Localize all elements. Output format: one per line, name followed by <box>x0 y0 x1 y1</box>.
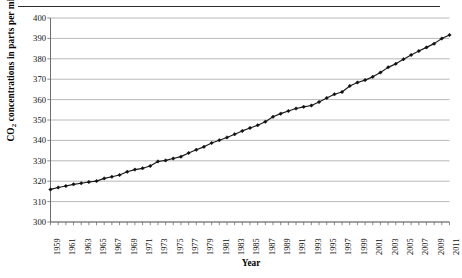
data-point-1982 <box>225 136 229 140</box>
data-point-1960 <box>56 186 60 190</box>
data-point-1990 <box>287 109 291 113</box>
co2-concentration-chart: CO2 concentrations in parts per million … <box>0 0 462 278</box>
x-axis-tick-1969: 1969 <box>131 238 139 255</box>
x-axis-tick-1977: 1977 <box>192 238 200 255</box>
data-point-1991 <box>294 107 298 111</box>
data-point-1984 <box>241 129 245 133</box>
gridlines <box>51 18 450 222</box>
x-axis-tick-2009: 2009 <box>438 238 446 255</box>
data-point-1993 <box>310 104 314 108</box>
x-axis-tick-1959: 1959 <box>54 238 62 255</box>
data-point-1962 <box>72 183 76 187</box>
x-axis-tick-1967: 1967 <box>115 238 123 255</box>
x-axis-tick-1991: 1991 <box>299 238 307 255</box>
x-axis-tick-1997: 1997 <box>345 238 353 255</box>
x-axis-title: Year <box>0 258 462 268</box>
data-point-1971 <box>141 167 145 171</box>
data-point-1999 <box>356 81 360 85</box>
x-axis-tick-2003: 2003 <box>392 238 400 255</box>
x-axis-tick-1987: 1987 <box>269 238 277 255</box>
data-point-1986 <box>256 124 259 128</box>
data-point-1959 <box>49 188 53 192</box>
data-point-1977 <box>187 151 191 155</box>
data-point-1978 <box>195 148 199 152</box>
data-point-1967 <box>110 175 114 179</box>
x-axis-tick-1961: 1961 <box>69 238 77 255</box>
x-axis-tick-1965: 1965 <box>100 238 108 255</box>
data-point-1968 <box>118 173 122 177</box>
data-point-2011 <box>448 33 452 37</box>
x-axis-tick-1993: 1993 <box>315 238 323 255</box>
x-axis-tick-1999: 1999 <box>361 238 369 255</box>
data-point-1975 <box>172 157 176 161</box>
x-axis-tick-1995: 1995 <box>330 238 338 255</box>
x-axis-tick-2011: 2011 <box>453 239 461 255</box>
data-point-1985 <box>248 126 252 130</box>
x-axis-tick-2005: 2005 <box>407 238 415 255</box>
data-point-1965 <box>95 179 99 183</box>
x-axis-tick-1985: 1985 <box>253 238 261 255</box>
x-axis-tick-1971: 1971 <box>146 238 154 255</box>
x-axis-tick-1975: 1975 <box>177 238 185 255</box>
data-point-1989 <box>279 112 283 116</box>
data-point-1992 <box>302 105 306 109</box>
data-point-1976 <box>179 155 183 159</box>
data-point-1961 <box>64 184 68 188</box>
x-axis-tick-1973: 1973 <box>161 238 169 255</box>
data-point-1996 <box>333 93 337 97</box>
data-point-1974 <box>164 159 168 163</box>
x-axis-tick-1983: 1983 <box>238 238 246 255</box>
data-point-1970 <box>133 168 137 172</box>
x-axis-tick-1963: 1963 <box>85 238 93 255</box>
data-point-1969 <box>125 170 129 174</box>
data-point-1964 <box>87 180 91 184</box>
data-point-1963 <box>79 182 83 186</box>
x-axis-tick-1979: 1979 <box>207 238 215 255</box>
data-point-1983 <box>233 132 237 136</box>
data-point-1966 <box>102 177 106 181</box>
data-point-1981 <box>218 138 222 142</box>
x-axis-tick-2001: 2001 <box>376 238 384 255</box>
data-series-co2 <box>49 33 452 191</box>
x-axis-tick-1981: 1981 <box>223 238 231 255</box>
x-axis-tick-1989: 1989 <box>284 238 292 255</box>
x-axis-tick-2007: 2007 <box>422 238 430 255</box>
